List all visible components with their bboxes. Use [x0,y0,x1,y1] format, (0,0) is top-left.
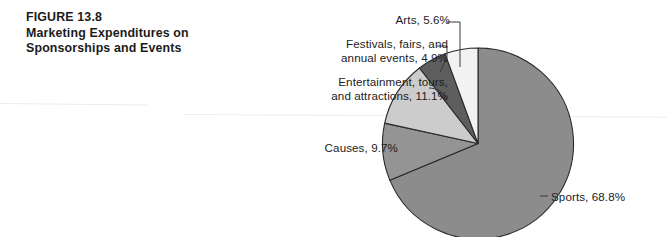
label-arts-text: Arts, 5.6% [330,13,450,27]
label-causes: Causes, 9.7% [268,141,398,155]
label-sports-text: Sports, 68.8% [551,190,661,204]
label-festivals-line-1: Festivals, fairs, and [268,37,448,51]
label-festivals: Festivals, fairs, and annual events, 4.9… [268,37,448,65]
label-entertainment-line-2: and attractions, 11.1% [258,89,448,103]
figure-container: FIGURE 13.8 Marketing Expenditures on Sp… [0,0,667,237]
label-entertainment: Entertainment, tours, and attractions, 1… [258,75,448,103]
label-arts: Arts, 5.6% [330,13,450,27]
label-entertainment-line-1: Entertainment, tours, [258,75,448,89]
label-festivals-line-2: annual events, 4.9% [268,51,448,65]
label-sports: Sports, 68.8% [551,190,661,204]
label-causes-text: Causes, 9.7% [268,141,398,155]
